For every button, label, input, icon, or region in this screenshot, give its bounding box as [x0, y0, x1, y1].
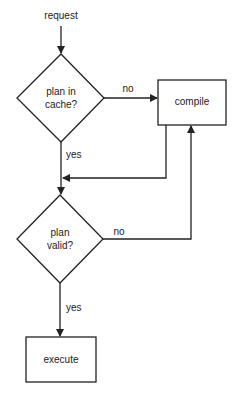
- edge-valid-no-to-compile: [103, 126, 191, 239]
- valid-check-diamond: [17, 195, 103, 283]
- cache-check-label-line1: plan in: [31, 86, 91, 98]
- cache-no-label: no: [118, 83, 138, 95]
- valid-check-label-line1: plan: [30, 227, 90, 239]
- execute-label: execute: [26, 354, 96, 366]
- start-label: request: [36, 10, 86, 22]
- cache-check-label-line2: cache?: [31, 99, 91, 111]
- cache-check-diamond: [17, 54, 104, 142]
- valid-yes-label: yes: [66, 302, 90, 314]
- valid-no-label: no: [109, 226, 129, 238]
- valid-check-label-line2: valid?: [30, 240, 90, 252]
- compile-label: compile: [158, 96, 226, 108]
- flowchart-canvas: [0, 0, 235, 398]
- cache-yes-label: yes: [66, 149, 90, 161]
